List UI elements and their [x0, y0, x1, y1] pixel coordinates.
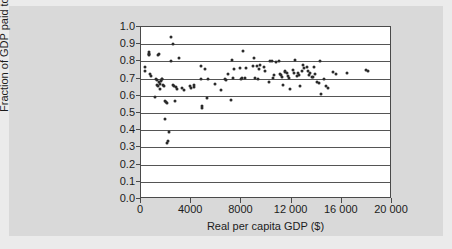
- data-point: [171, 43, 174, 46]
- y-axis-tick-label: 0.5: [109, 107, 135, 118]
- data-point: [161, 77, 164, 80]
- data-point: [205, 96, 208, 99]
- data-point: [288, 76, 291, 79]
- data-point: [299, 85, 302, 88]
- data-point: [251, 64, 254, 67]
- data-point: [176, 88, 179, 91]
- gridline: [141, 165, 390, 166]
- data-point: [300, 69, 303, 72]
- gridline: [141, 147, 390, 148]
- data-point: [229, 98, 232, 101]
- gridline: [141, 182, 390, 183]
- data-point: [367, 69, 370, 72]
- data-point: [239, 67, 242, 70]
- data-point: [144, 69, 147, 72]
- data-point: [257, 68, 260, 71]
- gridline: [141, 79, 390, 80]
- data-point: [264, 69, 267, 72]
- data-point: [323, 77, 326, 80]
- data-point: [165, 101, 168, 104]
- data-point: [320, 93, 323, 96]
- data-point: [178, 56, 181, 59]
- y-axis-tick-label: 0.4: [109, 124, 135, 135]
- y-axis-tick-label: 0.6: [109, 89, 135, 100]
- data-point: [167, 130, 170, 133]
- x-axis-label: Real per capita GDP ($): [140, 220, 391, 232]
- data-point: [256, 77, 259, 80]
- data-point: [148, 52, 151, 55]
- x-axis-tick-label: 12 000: [274, 203, 308, 215]
- data-point: [298, 74, 301, 77]
- data-point: [311, 75, 314, 78]
- data-point: [252, 56, 255, 59]
- data-point: [170, 36, 173, 39]
- data-point: [294, 58, 297, 61]
- data-point: [232, 68, 235, 71]
- data-point: [317, 82, 320, 85]
- data-point: [318, 60, 321, 63]
- scatter-plot-area: [140, 26, 391, 198]
- data-point: [281, 75, 284, 78]
- gridline: [141, 61, 390, 62]
- data-point: [200, 77, 203, 80]
- data-point: [245, 67, 248, 70]
- data-point: [159, 87, 162, 90]
- data-point: [345, 72, 348, 75]
- gridline: [141, 96, 390, 97]
- data-point: [157, 52, 160, 55]
- data-point: [230, 58, 233, 61]
- chart-figure: Fraction of GDP paid to labour 0.00.10.2…: [0, 0, 452, 249]
- gridline: [141, 44, 390, 45]
- data-point: [313, 65, 316, 68]
- y-axis-tick-labels: 0.00.10.20.30.40.50.60.70.80.91.0: [105, 26, 135, 198]
- x-axis-tick-labels: 04000800012 00016 00020 000: [140, 203, 391, 217]
- data-point: [163, 117, 166, 120]
- data-point: [226, 72, 229, 75]
- data-point: [271, 76, 274, 79]
- data-point: [204, 68, 207, 71]
- data-point: [207, 78, 210, 81]
- data-point: [334, 73, 337, 76]
- data-point: [219, 88, 222, 91]
- y-axis-tick-label: 0.1: [109, 175, 135, 186]
- x-axis-tick-label: 4000: [178, 203, 202, 215]
- data-point: [225, 79, 228, 82]
- data-point: [154, 96, 157, 99]
- y-axis-label: Fraction of GDP paid to labour: [0, 0, 10, 112]
- x-axis-tick-label: 8000: [228, 203, 252, 215]
- y-axis-tick-label: 0.0: [109, 193, 135, 204]
- x-axis-tick-label: 20 000: [374, 203, 408, 215]
- data-point: [231, 76, 234, 79]
- data-point: [199, 64, 202, 67]
- data-point: [270, 60, 273, 63]
- x-axis-tick-label: 0: [137, 203, 143, 215]
- data-point: [162, 85, 165, 88]
- y-axis-tick-label: 0.7: [109, 72, 135, 83]
- chart-panel: Fraction of GDP paid to labour 0.00.10.2…: [9, 6, 443, 236]
- data-point: [259, 63, 262, 66]
- data-point: [278, 60, 281, 63]
- data-point: [166, 142, 169, 145]
- data-point: [268, 81, 271, 84]
- data-point: [241, 50, 244, 53]
- data-point: [182, 88, 185, 91]
- x-axis-tick-label: 16 000: [324, 203, 358, 215]
- data-point: [243, 76, 246, 79]
- data-point: [326, 86, 329, 89]
- data-point: [201, 105, 204, 108]
- data-point: [314, 73, 317, 76]
- y-axis-tick-label: 1.0: [109, 21, 135, 32]
- y-axis-tick-label: 0.2: [109, 158, 135, 169]
- data-point: [169, 60, 172, 63]
- data-point: [282, 84, 285, 87]
- data-point: [166, 139, 169, 142]
- data-point: [193, 85, 196, 88]
- y-axis-tick-label: 0.9: [109, 38, 135, 49]
- gridline: [141, 130, 390, 131]
- data-point: [273, 74, 276, 77]
- data-point: [173, 99, 176, 102]
- y-axis-tick-label: 0.3: [109, 141, 135, 152]
- data-point: [309, 71, 312, 74]
- data-point: [305, 65, 308, 68]
- data-point: [214, 82, 217, 85]
